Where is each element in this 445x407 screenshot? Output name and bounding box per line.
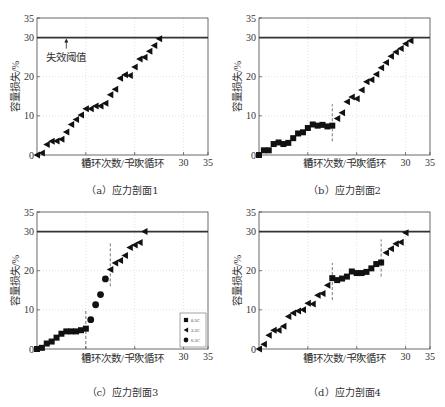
legend-entry-label: 0.5C [191, 318, 200, 323]
y-tick-label: 10 [24, 304, 34, 315]
triangle-left-marker [383, 249, 390, 256]
x-tick-label: 30 [401, 351, 411, 362]
chart-panel-c32: 10203035010203035循环次数/千次循环容量损失/%0.5C3.5C… [9, 207, 213, 365]
x-axis-label: 循环次数/千次循环 [81, 352, 164, 364]
chart-panel-b21: 10203035010203035循环次数/千次循环容量损失/% [231, 13, 435, 170]
chart-panel-a10: 10203035010203035循环次数/千次循环容量损失/%失效阈值 [9, 13, 213, 170]
data-series [256, 121, 335, 158]
triangle-left-marker [63, 128, 70, 135]
data-series [107, 228, 148, 273]
data-series [383, 229, 409, 256]
y-tick-label: 0 [29, 344, 34, 355]
x-tick-label: 35 [425, 157, 435, 168]
circle-marker [97, 291, 104, 298]
y-tick-label: 35 [24, 13, 34, 24]
triangle-left-marker [314, 292, 321, 299]
data-series [256, 282, 331, 353]
square-marker [378, 259, 384, 265]
triangle-left-marker [68, 121, 75, 128]
triangle-left-marker [324, 282, 331, 289]
y-tick-label: 30 [246, 226, 256, 237]
triangle-left-marker [343, 98, 350, 105]
chart-panel-d43: 10203035010203035循环次数/千次循环容量损失/% [231, 207, 435, 365]
square-marker [266, 147, 272, 153]
square-marker [184, 318, 188, 322]
caption-c: （c）应力剖面3 [37, 384, 208, 399]
triangle-left-marker [146, 48, 153, 55]
circle-marker [102, 276, 109, 283]
y-tick-label: 20 [246, 71, 256, 82]
triangle-left-marker [358, 87, 365, 94]
y-tick-label: 35 [246, 207, 256, 218]
threshold-label: 失效阈值 [46, 51, 87, 63]
y-tick-label: 30 [24, 32, 34, 43]
x-tick-label: 30 [179, 351, 189, 362]
x-tick-label: 30 [401, 157, 411, 168]
y-tick-label: 10 [246, 304, 256, 315]
x-tick-label: 30 [179, 157, 189, 168]
y-tick-label: 10 [246, 110, 256, 121]
arrowhead-icon [64, 39, 68, 43]
triangle-left-marker [151, 42, 158, 49]
circle-marker [92, 301, 99, 308]
y-axis-label: 容量损失/% [231, 60, 243, 112]
x-axis-label: 循环次数/千次循环 [303, 157, 386, 169]
y-tick-label: 20 [24, 71, 34, 82]
x-axis-label: 循环次数/千次循环 [303, 352, 386, 364]
square-marker [329, 123, 335, 129]
y-tick-label: 35 [24, 207, 34, 218]
y-tick-label: 35 [246, 13, 256, 24]
y-axis-label: 容量损失/% [9, 254, 21, 306]
triangle-left-marker [285, 313, 292, 320]
circle-marker [184, 338, 189, 343]
caption-b: （b）应力剖面2 [259, 182, 430, 197]
y-tick-label: 20 [246, 265, 256, 276]
triangle-left-marker [107, 266, 114, 273]
data-series [34, 326, 89, 352]
y-tick-label: 0 [251, 150, 256, 161]
legend-marker [184, 338, 189, 343]
plot-frame [37, 18, 208, 155]
caption-d: （d）应力剖面4 [259, 384, 430, 399]
legend-marker [184, 318, 188, 322]
triangle-left-marker [43, 141, 50, 148]
y-axis-label: 容量损失/% [9, 60, 21, 112]
triangle-left-marker [387, 53, 394, 60]
triangle-left-marker [378, 64, 385, 71]
x-tick-label: 35 [203, 157, 213, 168]
y-tick-label: 30 [24, 226, 34, 237]
square-marker [83, 326, 89, 332]
triangle-left-marker [141, 228, 148, 235]
y-tick-label: 20 [24, 265, 34, 276]
data-series [87, 276, 108, 324]
x-tick-label: 35 [425, 351, 435, 362]
y-tick-label: 0 [251, 344, 256, 355]
triangle-left-marker [363, 78, 370, 85]
triangle-left-marker [339, 109, 346, 116]
triangle-left-marker [107, 91, 114, 98]
triangle-left-marker [136, 56, 143, 63]
circle-marker [87, 316, 94, 323]
caption-a: （a）应力剖面1 [37, 182, 208, 197]
triangle-left-marker [117, 75, 124, 82]
plot-frame [259, 18, 430, 155]
triangle-left-marker [265, 332, 272, 339]
y-axis-label: 容量损失/% [231, 254, 243, 306]
x-axis-label: 循环次数/千次循环 [81, 157, 164, 169]
x-tick-label: 35 [203, 351, 213, 362]
y-tick-label: 10 [24, 110, 34, 121]
triangle-left-marker [156, 35, 163, 42]
data-series [334, 37, 414, 122]
legend-entry-label: 6.5C [191, 338, 200, 343]
y-tick-label: 0 [29, 150, 34, 161]
y-tick-label: 30 [246, 32, 256, 43]
legend-entry-label: 3.5C [191, 328, 200, 333]
figure-canvas: 10203035010203035循环次数/千次循环容量损失/%失效阈值1020… [0, 0, 445, 407]
